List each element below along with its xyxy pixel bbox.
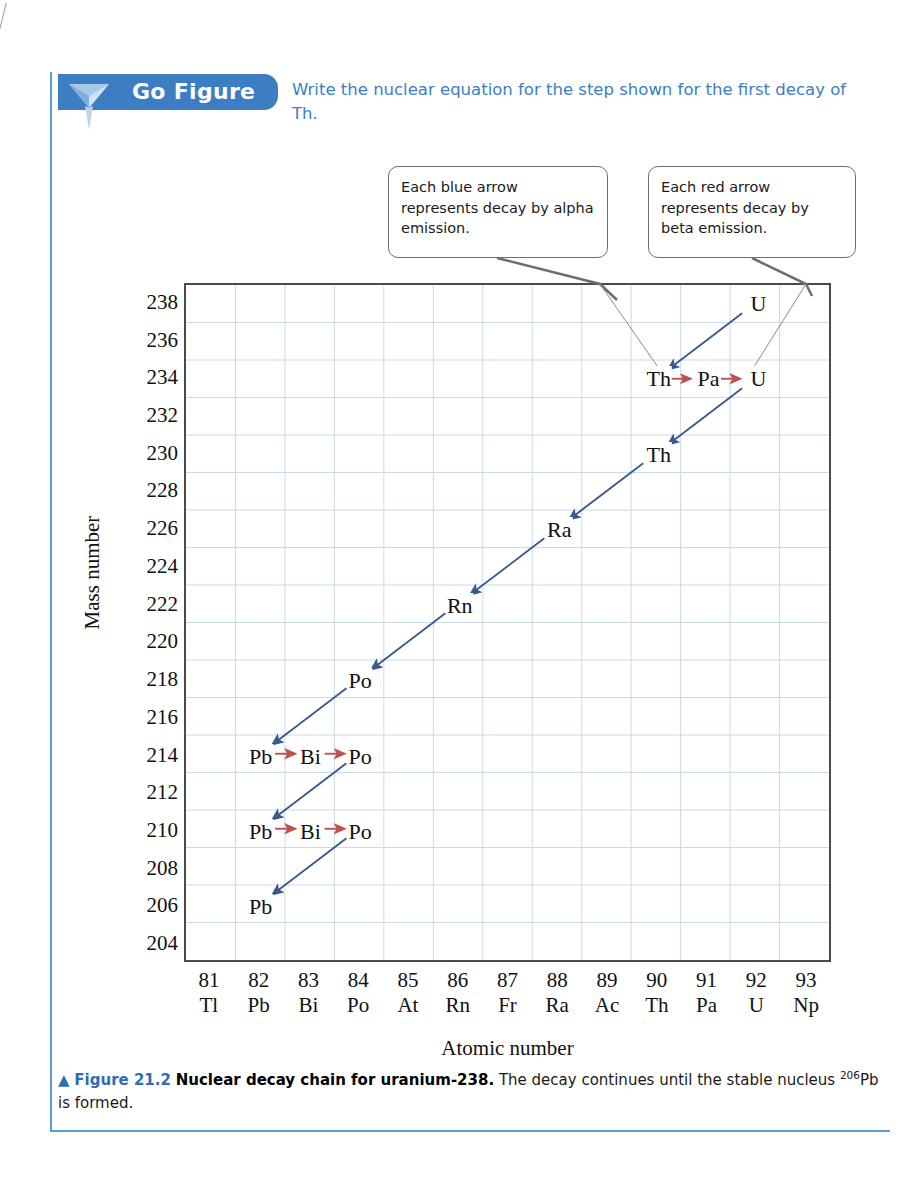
x-axis-title: Atomic number bbox=[184, 1036, 831, 1061]
y-tick-label: 206 bbox=[122, 893, 178, 918]
nuclide-label: Ra bbox=[546, 517, 572, 543]
nuclide-label: Pb bbox=[248, 744, 273, 770]
figure-caption: ▲ Figure 21.2 Nuclear decay chain for ur… bbox=[58, 1068, 884, 1114]
nuclide-label: Bi bbox=[299, 819, 322, 845]
caption-title: Nuclear decay chain for uranium-238. bbox=[176, 1071, 494, 1089]
nuclide-label: Pb bbox=[248, 819, 273, 845]
y-tick-label: 232 bbox=[122, 403, 178, 428]
y-tick-label: 238 bbox=[122, 289, 178, 314]
y-tick-label: 208 bbox=[122, 855, 178, 880]
nuclide-label: U bbox=[749, 291, 767, 317]
callout-alpha-emission: Each blue arrow represents decay by alph… bbox=[388, 166, 608, 258]
y-tick-label: 218 bbox=[122, 667, 178, 692]
triangle-down-icon bbox=[66, 78, 112, 132]
y-tick-label: 226 bbox=[122, 516, 178, 541]
y-tick-label: 222 bbox=[122, 591, 178, 616]
go-figure-banner: Go Figure bbox=[58, 74, 278, 110]
x-tick-label: 93Np bbox=[776, 968, 836, 1018]
y-tick-label: 230 bbox=[122, 440, 178, 465]
nuclide-label: U bbox=[749, 366, 767, 392]
nuclide-label: Po bbox=[348, 668, 373, 694]
y-tick-label: 228 bbox=[122, 478, 178, 503]
y-tick-label: 212 bbox=[122, 780, 178, 805]
decay-arrows bbox=[186, 285, 829, 960]
y-tick-label: 210 bbox=[122, 817, 178, 842]
nuclide-label: Pa bbox=[697, 366, 721, 392]
nuclide-label: Th bbox=[646, 442, 672, 468]
y-tick-label: 204 bbox=[122, 931, 178, 956]
x-tick-atomic-number: 93 bbox=[776, 968, 836, 993]
y-tick-label: 236 bbox=[122, 327, 178, 352]
caption-arrow: ▲ bbox=[58, 1071, 70, 1089]
callout-beta-emission: Each red arrow represents decay by beta … bbox=[648, 166, 856, 258]
caption-body-after: is formed. bbox=[58, 1094, 133, 1112]
nuclide-label: Bi bbox=[299, 744, 322, 770]
caption-superscript: 206 bbox=[840, 1069, 860, 1081]
go-figure-prompt: Write the nuclear equation for the step … bbox=[292, 78, 852, 126]
caption-element: Pb bbox=[860, 1071, 879, 1089]
x-tick-element-symbol: Np bbox=[776, 993, 836, 1018]
decay-chain-plot: UThPaUThRaRnPoPbBiPoPbBiPoPb bbox=[184, 283, 831, 962]
nuclide-label: Po bbox=[348, 744, 373, 770]
y-axis-title: Mass number bbox=[80, 473, 105, 673]
go-figure-label: Go Figure bbox=[132, 81, 255, 103]
y-axis-ticks: 2382362342322302282262242222202182162142… bbox=[120, 283, 178, 962]
nuclide-label: Po bbox=[348, 819, 373, 845]
y-tick-label: 224 bbox=[122, 553, 178, 578]
caption-body-before: The decay continues until the stable nuc… bbox=[494, 1071, 840, 1089]
scan-artifact bbox=[0, 3, 19, 35]
y-tick-label: 216 bbox=[122, 704, 178, 729]
caption-figure-number: Figure 21.2 bbox=[74, 1071, 171, 1089]
y-tick-label: 220 bbox=[122, 629, 178, 654]
x-axis-ticks: 81Tl82Pb83Bi84Po85At86Rn87Fr88Ra89Ac90Th… bbox=[184, 968, 831, 1038]
y-tick-label: 234 bbox=[122, 365, 178, 390]
y-tick-label: 214 bbox=[122, 742, 178, 767]
nuclide-label: Th bbox=[646, 366, 672, 392]
nuclide-label: Rn bbox=[446, 593, 474, 619]
nuclide-label: Pb bbox=[248, 894, 273, 920]
